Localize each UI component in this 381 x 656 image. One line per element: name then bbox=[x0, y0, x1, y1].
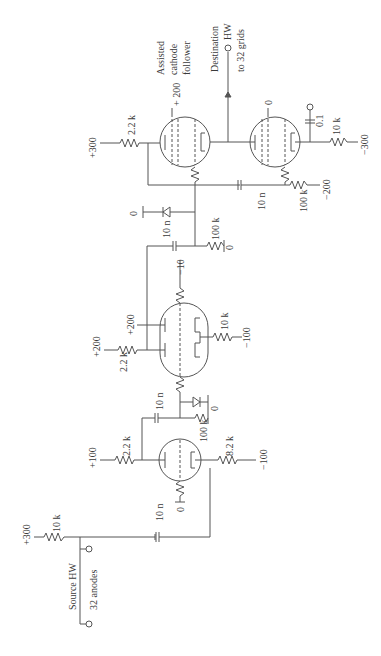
svg-text:−100: −100 bbox=[258, 449, 269, 470]
dest-hw-label: HW bbox=[222, 23, 233, 40]
svg-text:10 n: 10 n bbox=[154, 393, 165, 411]
supply-label-input: +300 bbox=[21, 524, 32, 545]
supply-label-stage1: +100 bbox=[87, 447, 98, 468]
label-assisted: Assisted bbox=[155, 41, 166, 75]
to-grids-label: to 32 grids bbox=[235, 29, 246, 72]
pentode-out-envelope bbox=[250, 117, 300, 167]
coupling-2-3: 10 n 0 100 k 0 bbox=[128, 185, 235, 252]
output-pentode: 0 10 n 100 k −200 0.1 10 k −300 bbox=[238, 100, 370, 212]
diode-clamp1 bbox=[193, 397, 200, 407]
resistor-input bbox=[44, 533, 64, 541]
resistor-input-label: 10 k bbox=[51, 515, 62, 533]
anodes-label: 32 anodes bbox=[88, 570, 99, 610]
svg-text:+ 200: + 200 bbox=[171, 83, 182, 106]
svg-text:+300: +300 bbox=[87, 137, 98, 158]
source-terminal-bottom bbox=[86, 621, 92, 627]
tube-circuit-diagram: +300 10 k Source HW 32 anodes 10 n +100 … bbox=[0, 0, 381, 656]
svg-text:−300: −300 bbox=[359, 134, 370, 155]
destination-output: Destination HW to 32 grids bbox=[209, 23, 246, 142]
svg-text:0: 0 bbox=[263, 100, 274, 105]
svg-text:10 k: 10 k bbox=[331, 118, 342, 136]
destination-label: Destination bbox=[209, 26, 220, 72]
svg-text:0.1: 0.1 bbox=[314, 115, 325, 128]
svg-text:2.2 k: 2.2 k bbox=[118, 352, 129, 372]
svg-text:−200: −200 bbox=[321, 179, 332, 200]
source-hw-label: Source HW bbox=[67, 563, 78, 610]
triode2-envelope bbox=[160, 303, 208, 377]
svg-text:100 k: 100 k bbox=[298, 190, 309, 213]
coupling-1-2: 10 n 0 bbox=[142, 377, 220, 460]
diode-clamp2 bbox=[163, 207, 170, 217]
svg-text:+200: +200 bbox=[91, 336, 102, 357]
svg-text:0: 0 bbox=[175, 507, 186, 512]
pentode-cf-envelope bbox=[160, 117, 210, 167]
svg-text:2.2 k: 2.2 k bbox=[126, 115, 137, 135]
resistor-cathode1 bbox=[218, 456, 237, 464]
resistor-anode1-label: 2.2 k bbox=[121, 436, 132, 456]
source-terminal-top bbox=[86, 546, 92, 552]
svg-text:100 k: 100 k bbox=[198, 420, 209, 443]
stage1-triode: +100 2.2 k 0 100 k 8.2 k −100 bbox=[87, 420, 269, 513]
stage2-double-triode: +200 2.2 k +200 10 k −100 −10 bbox=[91, 246, 252, 377]
capacitor-input-label: 10 n bbox=[154, 504, 165, 522]
resistor-anode1 bbox=[115, 456, 134, 464]
svg-text:10 k: 10 k bbox=[219, 313, 230, 331]
svg-text:100 k: 100 k bbox=[210, 218, 221, 241]
label-cathode: cathode bbox=[168, 43, 179, 75]
destination-terminal bbox=[225, 45, 231, 51]
svg-text:10 n: 10 n bbox=[256, 193, 267, 211]
svg-text:0: 0 bbox=[209, 406, 220, 411]
label-follower: follower bbox=[181, 40, 192, 75]
svg-text:8.2 k: 8.2 k bbox=[224, 436, 235, 456]
svg-text:0: 0 bbox=[128, 211, 139, 216]
svg-text:−10: −10 bbox=[175, 259, 186, 275]
stage3-cathode-follower: +300 2.2 k + 200 Assisted cathode follow… bbox=[87, 40, 255, 185]
svg-text:0: 0 bbox=[224, 245, 235, 250]
svg-text:10 n: 10 n bbox=[161, 221, 172, 239]
svg-text:−100: −100 bbox=[241, 327, 252, 348]
svg-text:+200: +200 bbox=[125, 314, 136, 335]
